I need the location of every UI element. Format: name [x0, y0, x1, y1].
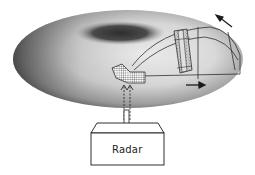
radar-diagram: Radar — [0, 0, 255, 175]
torus — [13, 10, 243, 108]
torus-hole — [75, 21, 165, 45]
radar-label: Radar — [112, 144, 142, 155]
direction-arrow-top-icon — [216, 15, 232, 27]
